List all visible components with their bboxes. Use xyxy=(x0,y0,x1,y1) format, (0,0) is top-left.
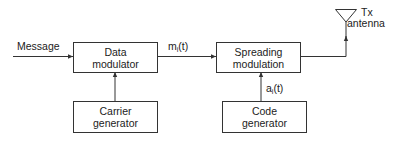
antenna-label-antenna: antenna xyxy=(347,17,385,29)
output-line xyxy=(300,22,346,57)
carrier-generator-line1: Carrier xyxy=(99,105,131,117)
mi-base: m xyxy=(168,40,177,52)
carrier-generator-block: Carrier generator xyxy=(73,101,158,133)
data-modulator-block: Data modulator xyxy=(73,42,158,73)
carrier-generator-line2: generator xyxy=(93,117,138,129)
diagram-connections xyxy=(0,0,400,142)
spreading-modulation-block: Spreading modulation xyxy=(216,42,301,73)
mi-arg: (t) xyxy=(178,40,188,52)
message-label: Message xyxy=(17,40,60,52)
code-generator-block: Code generator xyxy=(222,101,307,133)
mi-label: mi(t) xyxy=(168,40,188,56)
ai-label: ai(t) xyxy=(266,82,283,98)
spreading-modulation-line1: Spreading xyxy=(235,46,283,58)
data-modulator-line2: modulator xyxy=(92,58,139,70)
code-generator-line1: Code xyxy=(252,105,277,117)
data-modulator-line1: Data xyxy=(104,46,126,58)
ai-arg: (t) xyxy=(273,82,283,94)
spreading-modulation-line2: modulation xyxy=(233,58,284,70)
code-generator-line2: generator xyxy=(242,117,287,129)
